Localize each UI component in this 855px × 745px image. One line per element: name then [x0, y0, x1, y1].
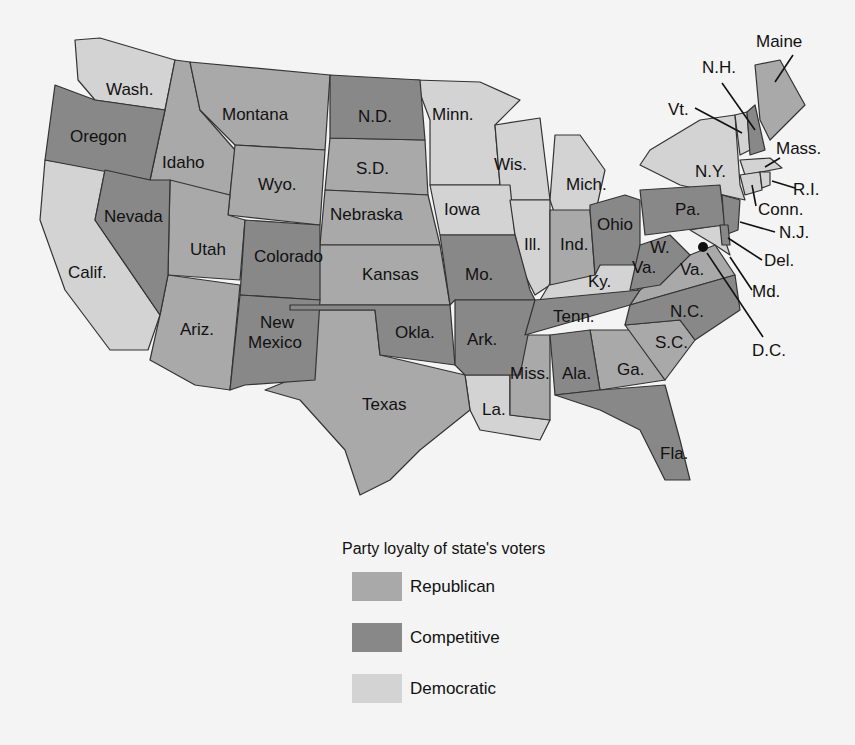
label-nebraska: Nebraska [330, 205, 403, 224]
label-ill: Ill. [524, 235, 541, 254]
label-vt: Vt. [668, 100, 689, 119]
legend-item-competitive: Competitive [352, 623, 545, 652]
label-montana: Montana [222, 105, 289, 124]
label-mich: Mich. [566, 175, 607, 194]
label-utah: Utah [190, 240, 226, 259]
democratic-swatch [352, 674, 402, 703]
legend: Party loyalty of state's voters Republic… [342, 540, 545, 725]
label-conn: Conn. [758, 200, 803, 219]
state-florida [555, 385, 690, 480]
label-ga: Ga. [617, 360, 644, 379]
label-tenn: Tenn. [553, 307, 595, 326]
label-wva2: Va. [632, 258, 656, 277]
label-nh: N.H. [702, 58, 736, 77]
label-sd: S.D. [356, 159, 389, 178]
label-nj: N.J. [779, 223, 809, 242]
legend-title: Party loyalty of state's voters [342, 540, 545, 558]
label-wva1: W. [650, 238, 670, 257]
label-newmexico1: New [260, 313, 295, 332]
legend-label: Competitive [410, 628, 500, 648]
label-ark: Ark. [467, 330, 497, 349]
label-ny: N.Y. [695, 162, 726, 181]
legend-label: Democratic [410, 679, 496, 699]
state-delaware [720, 225, 730, 245]
label-nd: N.D. [358, 107, 392, 126]
dc-marker [698, 242, 708, 252]
label-mass: Mass. [776, 139, 821, 158]
label-wash: Wash. [106, 80, 154, 99]
label-ky: Ky. [588, 272, 611, 291]
label-idaho: Idaho [162, 153, 205, 172]
label-wis: Wis. [494, 155, 527, 174]
label-ariz: Ariz. [180, 320, 214, 339]
label-md: Md. [752, 282, 780, 301]
label-pa: Pa. [675, 200, 701, 219]
label-ri: R.I. [793, 180, 819, 199]
state-conn [740, 172, 762, 195]
label-wyo: Wyo. [258, 175, 297, 194]
label-ohio: Ohio [597, 215, 633, 234]
legend-label: Republican [410, 577, 495, 597]
label-calif: Calif. [68, 263, 107, 282]
us-party-loyalty-map: Wash. Oregon Calif. Idaho Nevada Montana… [0, 0, 855, 540]
competitive-swatch [352, 623, 402, 652]
legend-item-democratic: Democratic [352, 674, 545, 703]
label-la: La. [482, 400, 506, 419]
republican-swatch [352, 572, 402, 601]
label-ind: Ind. [560, 235, 588, 254]
label-mo: Mo. [465, 265, 493, 284]
label-va: Va. [680, 260, 704, 279]
label-newmexico2: Mexico [248, 333, 302, 352]
label-texas: Texas [362, 395, 406, 414]
label-oregon: Oregon [70, 127, 127, 146]
state-ri [760, 172, 770, 188]
label-nc: N.C. [670, 302, 704, 321]
label-kansas: Kansas [362, 265, 419, 284]
label-fla: Fla. [660, 444, 688, 463]
label-sc: S.C. [655, 333, 688, 352]
label-ala: Ala. [562, 364, 591, 383]
label-del: Del. [764, 251, 794, 270]
label-okla: Okla. [395, 323, 435, 342]
state-maine [755, 60, 805, 140]
label-nevada: Nevada [104, 207, 163, 226]
label-iowa: Iowa [444, 200, 480, 219]
label-minn: Minn. [432, 105, 474, 124]
label-dc: D.C. [752, 341, 786, 360]
label-colorado: Colorado [254, 247, 323, 266]
legend-item-republican: Republican [352, 572, 545, 601]
label-miss: Miss. [510, 364, 550, 383]
label-maine: Maine [756, 32, 802, 51]
